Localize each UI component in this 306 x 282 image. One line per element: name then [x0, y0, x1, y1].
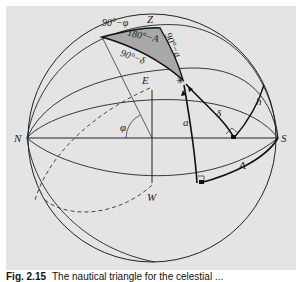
- label-declination: δ: [216, 108, 221, 119]
- label-azimuth: A: [239, 160, 246, 171]
- altitude-arc: [184, 85, 197, 183]
- endpoint-declination: [231, 135, 236, 139]
- hour-angle-arc: [234, 85, 264, 138]
- declination-arc: [186, 84, 234, 138]
- caption-number: Fig. 2.15: [6, 271, 46, 282]
- endpoint-azimuth: [199, 180, 204, 184]
- caption-text: The nautical triangle for the celestial …: [52, 271, 223, 282]
- label-colatitude: 90°−φ: [102, 18, 128, 28]
- label-west: W: [147, 192, 156, 203]
- star-icon: ✳: [176, 75, 184, 86]
- lower-great-circle: [27, 138, 155, 262]
- label-south: S: [281, 133, 287, 144]
- label-zenith: Z: [147, 14, 153, 25]
- label-east: E: [142, 75, 149, 86]
- label-altitude: a: [183, 117, 189, 128]
- equator-dashed: [35, 88, 150, 200]
- label-latitude: φ: [120, 122, 126, 133]
- label-north: N: [14, 133, 21, 144]
- label-hour-angle: h: [256, 96, 262, 107]
- lower-dashed-arc: [45, 185, 152, 212]
- figure-caption: Fig. 2.15The nautical triangle for the c…: [6, 271, 223, 282]
- latitude-angle-arc: [126, 115, 140, 138]
